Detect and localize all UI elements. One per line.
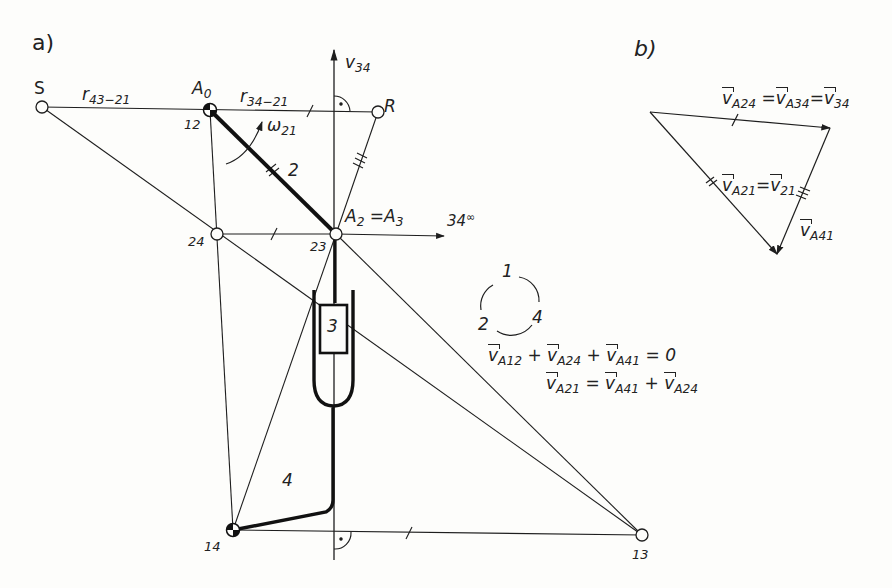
axis-34inf [336,234,444,236]
label-a0: A0 [192,80,211,97]
label-va24-va34-v34: vA24 =vA34=v34 [722,90,850,107]
line-14-13 [233,530,642,535]
pole-circle-1: 1 [502,263,513,280]
pole-24 [211,228,223,240]
pivot-a0 [204,104,217,117]
line-a0-14 [210,110,233,530]
label-omega21: ω21 [267,117,297,134]
label-va21-v21: vA21=v21 [722,177,796,194]
label-34-infinity: 34∞ [447,214,475,229]
pole-circle-2: 2 [478,316,489,333]
pole-circle-4: 4 [532,309,543,326]
label-a2-eq-a3: A2 =A3 [345,208,404,225]
pole-label-24: 24 [188,235,205,248]
link-4-guide [233,290,333,530]
point-s [36,101,48,113]
pole-label-12: 12 [184,118,201,131]
vector-va24 [650,112,830,128]
pole-23 [330,228,342,240]
equation-1: vA12 + vA24 + vA41 = 0 [488,347,676,364]
kinematic-diagram: a) b) S R A0 12 24 23 14 13 A2 =A3 r43−2… [0,0,892,588]
label-link-4: 4 [282,472,293,489]
pole-13 [636,529,648,541]
equation-2: vA21 = vA41 + vA24 [546,375,698,392]
right-angle-bottom [334,532,351,549]
label-link-2: 2 [288,162,299,179]
panel-b-label: b) [634,38,657,60]
label-s: S [34,80,45,97]
label-r: R [384,98,396,115]
panel-a-label: a) [32,32,54,54]
label-link-3: 3 [327,318,338,335]
label-v34: v34 [345,54,371,71]
label-va41: vA41 [800,222,834,239]
pole-label-23: 23 [310,240,327,253]
pole-label-13: 13 [632,548,649,561]
label-r43-21: r43−21 [82,86,130,103]
point-r [372,106,384,118]
pivot-14 [227,524,240,537]
label-r34-21: r34−21 [240,88,288,105]
pole-label-14: 14 [204,540,221,553]
